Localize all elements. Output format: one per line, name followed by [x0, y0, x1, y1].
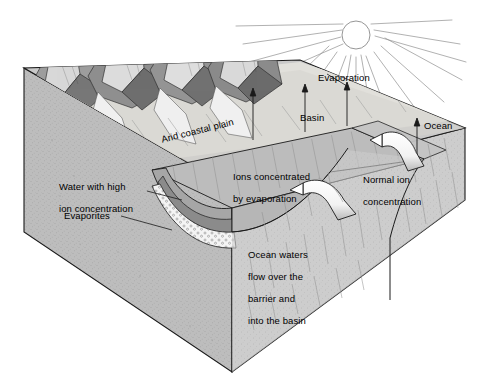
ocean-waters-line1: Ocean waters — [248, 249, 308, 260]
ocean-waters-line2: flow over the — [248, 271, 303, 282]
water-high-ion-line1: Water with high — [59, 181, 126, 192]
label-evaporation: Evaporation — [318, 72, 370, 84]
label-normal-ion-concentration: Normal ion concentration — [352, 163, 421, 218]
label-basin: Basin — [300, 112, 324, 124]
label-ions-concentrated-by-evaporation: Ions concentrated by evaporation — [222, 160, 310, 215]
ions-concentrated-line1: Ions concentrated — [233, 171, 310, 182]
label-ocean-waters-flow: Ocean waters flow over the barrier and i… — [237, 238, 308, 337]
normal-ion-line1: Normal ion — [363, 174, 410, 185]
diagram-canvas: Arid coastal plain Basin Ocean Evaporati… — [0, 0, 484, 388]
normal-ion-line2: concentration — [363, 196, 421, 207]
label-ocean: Ocean — [424, 120, 453, 132]
ocean-waters-line4: into the basin — [248, 315, 306, 326]
ions-concentrated-line2: by evaporation — [233, 193, 297, 204]
ocean-waters-line3: barrier and — [248, 293, 295, 304]
label-evaporites: Evaporites — [64, 210, 110, 222]
